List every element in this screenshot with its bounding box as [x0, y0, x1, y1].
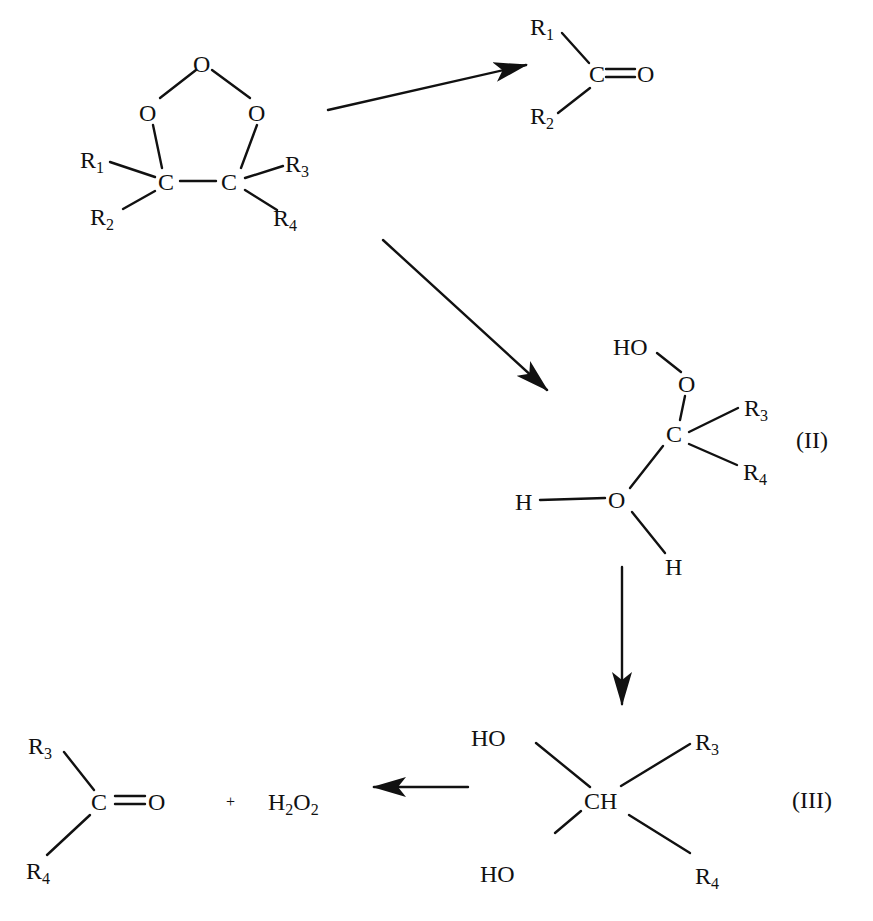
II-h-left: H [515, 490, 532, 514]
ozonide-o-right: O [248, 101, 265, 125]
III-ho-bottom: HO [480, 862, 515, 886]
ozonide-r2: R2 [90, 205, 114, 233]
III-r3: R3 [695, 730, 719, 758]
ozonide-o-left: O [139, 101, 156, 125]
carbonyl-top-c: C [589, 62, 605, 86]
ozonide-r4: R4 [273, 206, 297, 234]
II-label: (II) [796, 428, 828, 452]
arrow-ozonide-to-carbonyl [328, 65, 526, 110]
III-ch: CH [584, 789, 617, 813]
ozonide-c-right: C [221, 170, 237, 194]
carbonyl-top-r2: R2 [530, 104, 554, 132]
ozonide-o-top: O [193, 52, 210, 76]
II-o-water: O [608, 488, 625, 512]
II-o-peroxy: O [678, 372, 695, 396]
III-ho-top: HO [471, 726, 506, 750]
ozonide-c-left: C [158, 170, 174, 194]
II-ho: HO [613, 335, 648, 359]
ozonide-bonds [110, 70, 283, 210]
III-r4: R4 [695, 864, 719, 892]
carbonyl-bottom-r4: R4 [26, 859, 50, 887]
plus-sign: + [226, 794, 235, 810]
reaction-scheme: O O O C C R1 R2 R3 R4 R1 R2 C O HO O C R… [0, 0, 873, 921]
intermediate-II-bonds [540, 353, 738, 553]
II-r3: R3 [744, 396, 768, 424]
arrow-ozonide-to-II [383, 240, 547, 390]
carbonyl-top-r1: R1 [530, 15, 554, 43]
carbonyl-bottom-r3: R3 [28, 734, 52, 762]
ozonide-r3: R3 [285, 152, 309, 180]
ozonide-r1: R1 [80, 148, 104, 176]
III-label: (III) [792, 788, 832, 812]
II-r4: R4 [743, 460, 767, 488]
II-h-bottom: H [665, 555, 682, 579]
carbonyl-top-o: O [637, 62, 654, 86]
h2o2: H2O2 [268, 790, 319, 818]
carbonyl-bottom-c: C [91, 790, 107, 814]
II-carbon: C [666, 422, 682, 446]
carbonyl-bottom-o: O [148, 790, 165, 814]
